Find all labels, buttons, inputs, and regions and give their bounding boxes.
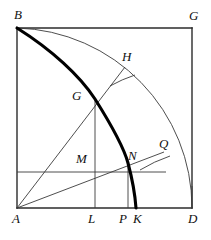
point-label-M: M [76, 152, 87, 165]
point-label-P: P [119, 212, 127, 225]
geometry-figure: B G H G M N Q A L P K D [0, 0, 211, 240]
figure-canvas [0, 0, 211, 240]
arc-tick-Q-icon [140, 156, 170, 170]
radius-A-Q-line [17, 152, 164, 208]
ordinate-lines [95, 99, 128, 208]
radial-lines [17, 67, 164, 208]
point-label-Q: Q [159, 137, 168, 150]
quarter-arc-BD-icon [17, 28, 192, 208]
square-abdg [17, 28, 192, 208]
point-label-L: L [88, 212, 95, 225]
quadratrix-curve-BK-icon [17, 28, 136, 208]
point-label-B: B [14, 8, 22, 21]
point-label-A: A [12, 212, 20, 225]
point-label-K: K [133, 212, 142, 225]
point-label-N: N [128, 149, 137, 162]
radius-A-H-line [17, 67, 125, 208]
arc-tick-H-icon [110, 75, 135, 86]
point-label-G: G [189, 9, 198, 22]
point-label-H: H [122, 50, 131, 63]
point-label-D: D [188, 212, 197, 225]
point-label-G-inner: G [72, 89, 81, 102]
